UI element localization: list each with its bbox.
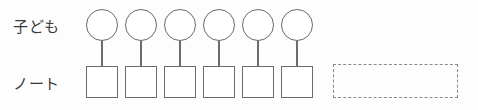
- child-circle: [281, 9, 313, 41]
- note-square: [164, 66, 196, 98]
- notes-row-label: ノート: [0, 72, 86, 93]
- notes-items: [86, 66, 313, 98]
- child-circle: [242, 9, 274, 41]
- child-circle: [164, 9, 196, 41]
- note-square: [242, 66, 274, 98]
- note-square: [125, 66, 157, 98]
- note-square: [281, 66, 313, 98]
- note-square: [86, 66, 118, 98]
- correspondence-diagram: 子ども ノート: [0, 0, 478, 110]
- child-circle: [203, 9, 235, 41]
- children-row-label: 子ども: [0, 15, 86, 36]
- notes-row: ノート: [0, 62, 313, 102]
- children-items: [86, 9, 313, 41]
- dashed-unknown-region: [333, 64, 458, 98]
- child-circle: [86, 9, 118, 41]
- child-circle: [125, 9, 157, 41]
- children-row: 子ども: [0, 6, 313, 44]
- note-square: [203, 66, 235, 98]
